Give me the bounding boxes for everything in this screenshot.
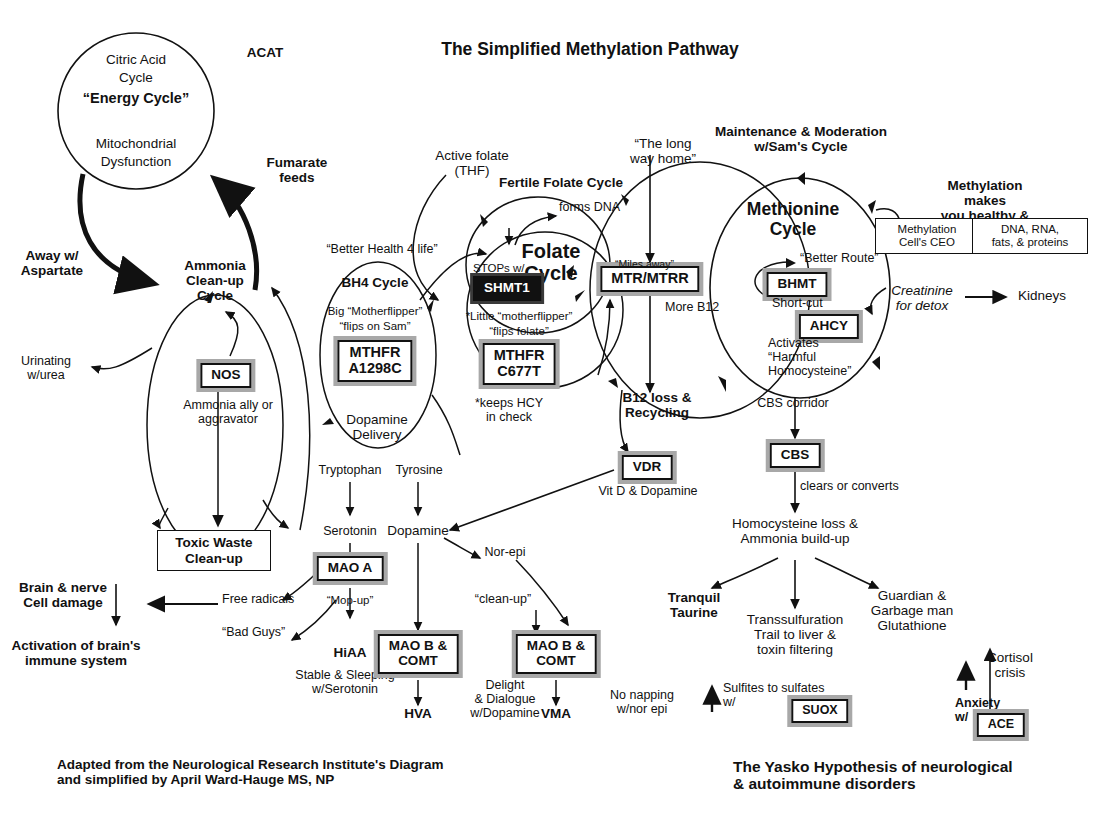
- label-acat: ACAT: [247, 45, 284, 60]
- label-nor-epi: Nor-epi: [485, 545, 526, 559]
- box-toxic-waste: Toxic Waste Clean-up: [157, 530, 271, 571]
- label-more-b12: More B12: [665, 300, 719, 314]
- bh4-caption-above: “Better Health 4 life”: [326, 242, 437, 256]
- bh4-note2: “flips on Sam”: [340, 320, 411, 333]
- methionine-title: Methionine Cycle: [747, 200, 839, 239]
- label-serotonin: Serotonin: [323, 524, 377, 538]
- label-activates-harmful: Activates “Harmful Homocysteine”: [768, 336, 851, 378]
- methionine-heading: Maintenance & Moderation w/Sam's Cycle: [715, 124, 887, 154]
- label-keeps-hcy: *keeps HCY in check: [475, 396, 543, 424]
- bh4-note-bottom: Dopamine Delivery: [346, 412, 408, 442]
- bh4-note1: Big “Motherflipper”: [328, 305, 423, 318]
- label-homocysteine-loss: Homocysteine loss & Ammonia build-up: [732, 516, 858, 546]
- gene-box-vdr[interactable]: VDR: [622, 455, 673, 480]
- gene-box-suox[interactable]: SUOX: [791, 699, 848, 723]
- label-tryptophan: Tryptophan: [319, 463, 382, 477]
- label-clears-or-converts: clears or converts: [800, 479, 899, 493]
- label-urinating-urea: Urinating w/urea: [21, 354, 71, 382]
- label-clean-up: “clean-up”: [475, 592, 531, 606]
- gene-box-mao-b-comt-1[interactable]: MAO B & COMT: [378, 634, 459, 674]
- label-stops-with: STOPs w/: [473, 262, 525, 275]
- label-no-napping: No napping w/nor epi: [610, 688, 674, 716]
- gene-box-shmt1[interactable]: SHMT1: [473, 276, 541, 301]
- label-away-aspartate: Away w/ Aspartate: [21, 248, 83, 278]
- energy-cycle-line1: Citric Acid: [106, 52, 166, 67]
- label-cortisol-crisis: Cortisol crisis: [987, 650, 1033, 680]
- label-mop-up: “Mop-up”: [327, 594, 374, 607]
- energy-cycle-line2: Cycle: [119, 70, 153, 85]
- label-better-route: “Better Route”: [800, 251, 879, 265]
- gene-box-bhmt[interactable]: BHMT: [767, 272, 828, 297]
- footer-hypothesis: The Yasko Hypothesis of neurological & a…: [733, 758, 1013, 793]
- label-free-radicals: Free radicals: [222, 592, 294, 606]
- label-kidneys: Kidneys: [1018, 288, 1066, 303]
- label-flips-folate: “flips folate”: [489, 325, 548, 338]
- label-tranquil-taurine: Tranquil Taurine: [668, 590, 721, 620]
- label-dopamine: Dopamine: [387, 523, 449, 538]
- energy-cycle-line3: “Energy Cycle”: [83, 90, 189, 106]
- label-activation-immune: Activation of brain's immune system: [11, 638, 140, 668]
- label-active-folate: Active folate (THF): [435, 148, 509, 178]
- gene-box-mao-a[interactable]: MAO A: [317, 556, 384, 581]
- label-miles-away: “Miles away”: [615, 259, 674, 271]
- gene-box-mthfr-c677t[interactable]: MTHFR C677T: [483, 343, 556, 385]
- bh4-title: BH4 Cycle: [342, 275, 409, 290]
- label-delight-dialogue: Delight & Dialogue w/Dopamine: [470, 678, 539, 720]
- label-bad-guys: “Bad Guys”: [222, 625, 285, 639]
- gene-box-cbs[interactable]: CBS: [770, 443, 821, 468]
- label-ammonia-ally: Ammonia ally or aggravator: [183, 398, 273, 426]
- label-little-motherflipper: *Little “motherflipper”: [466, 310, 573, 323]
- label-brain-nerve: Brain & nerve Cell damage: [19, 580, 107, 610]
- gene-box-ace[interactable]: ACE: [977, 713, 1025, 737]
- label-cbs-corridor: CBS corridor: [757, 396, 829, 410]
- fertile-folate-title: Fertile Folate Cycle: [499, 175, 623, 190]
- box-methylation-ceo: Methylation Cell's CEO: [875, 218, 979, 254]
- label-vma: VMA: [541, 706, 571, 721]
- gene-box-mao-b-comt-2[interactable]: MAO B & COMT: [516, 634, 597, 674]
- label-long-way-home: “The long way home”: [630, 136, 696, 166]
- gene-box-mthfr-a1298c[interactable]: MTHFR A1298C: [337, 340, 412, 382]
- label-transsulfuration: Transsulfuration Trail to liver & toxin …: [747, 612, 843, 657]
- label-guardian-garbage: Guardian & Garbage man Glutathione: [871, 588, 954, 633]
- label-tyrosine: Tyrosine: [395, 463, 442, 477]
- label-forms-dna: forms DNA: [559, 200, 620, 214]
- footer-credit: Adapted from the Neurological Research I…: [57, 757, 444, 787]
- energy-cycle-line5: Dysfunction: [101, 154, 172, 169]
- label-creatinine-detox: Creatinine for detox: [891, 283, 953, 313]
- label-b12-loss: B12 loss & Recycling: [622, 390, 691, 420]
- label-vit-d-dopamine: Vit D & Dopamine: [598, 484, 697, 498]
- label-fumarate-feeds: Fumarate feeds: [267, 155, 328, 185]
- gene-box-nos[interactable]: NOS: [200, 363, 251, 388]
- label-hiaa: HiAA: [334, 645, 367, 660]
- page-title: The Simplified Methylation Pathway: [441, 40, 739, 60]
- label-ammonia-cleanup: Ammonia Clean-up Cycle: [184, 258, 246, 303]
- methylation-pathway-diagram: The Simplified Methylation Pathway ACAT …: [0, 0, 1097, 834]
- label-hva: HVA: [404, 706, 432, 721]
- label-short-cut: Short-cut: [772, 296, 823, 310]
- box-dna-rna: DNA, RNA, fats, & proteins: [972, 218, 1088, 254]
- energy-cycle-line4: Mitochondrial: [96, 136, 176, 151]
